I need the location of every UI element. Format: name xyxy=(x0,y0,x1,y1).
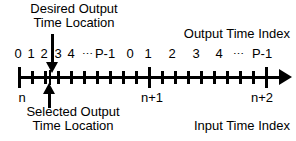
selected-output-label-line2: Time Location xyxy=(2,119,144,133)
right-arrow-icon xyxy=(279,69,292,85)
axis-minor-tick xyxy=(213,71,216,84)
axis-minor-tick xyxy=(57,71,60,84)
selected-output-label-line1: Selected Output xyxy=(26,104,119,119)
output-index-np1-3: 3 xyxy=(192,46,199,61)
output-index-np1-ellipsis: ⋯ xyxy=(233,48,244,61)
output-index-n-ellipsis: ⋯ xyxy=(82,48,93,61)
axis-major-tick-np2 xyxy=(265,67,268,88)
output-index-np1-0: 0 xyxy=(126,46,133,61)
time-index-diagram: Desired Output Time Location Output Time… xyxy=(0,0,296,141)
axis-minor-tick xyxy=(70,71,73,84)
desired-output-time-location-label: Desired Output Time Location xyxy=(14,2,134,29)
output-time-index-label: Output Time Index xyxy=(184,27,290,41)
selected-output-time-location-label: Selected Output Time Location xyxy=(2,105,144,132)
axis-minor-tick xyxy=(200,71,203,84)
desired-output-label-line2: Time Location xyxy=(14,16,134,30)
output-index-np1-1: 1 xyxy=(144,46,151,61)
axis-minor-tick xyxy=(31,71,34,84)
axis-minor-tick xyxy=(252,71,255,84)
frame-index-np1: n+1 xyxy=(141,90,163,105)
output-index-n-2: 2 xyxy=(40,46,47,61)
input-time-index-label: Input Time Index xyxy=(194,119,290,133)
output-index-n-4: 4 xyxy=(67,46,74,61)
output-index-np1-2: 2 xyxy=(168,46,175,61)
axis-minor-tick xyxy=(83,71,86,84)
axis-minor-tick xyxy=(226,71,229,84)
desired-output-label-line1: Desired Output xyxy=(30,1,117,16)
output-index-n-last: P-1 xyxy=(95,46,115,61)
output-index-np1-4: 4 xyxy=(215,46,222,61)
axis-minor-tick xyxy=(109,71,112,84)
frame-index-n: n xyxy=(18,90,25,105)
output-index-np1-last: P-1 xyxy=(252,46,272,61)
axis-minor-tick xyxy=(135,71,138,84)
output-index-n-1: 1 xyxy=(27,46,34,61)
axis-minor-tick xyxy=(174,71,177,84)
axis-minor-tick xyxy=(239,71,242,84)
frame-index-np2: n+2 xyxy=(251,90,273,105)
output-index-n-3: 3 xyxy=(54,46,61,61)
axis-minor-tick xyxy=(96,71,99,84)
axis-minor-tick xyxy=(122,71,125,84)
axis-major-tick-np1 xyxy=(148,67,151,88)
output-index-n-0: 0 xyxy=(14,46,21,61)
axis-minor-tick xyxy=(187,71,190,84)
axis-minor-tick xyxy=(161,71,164,84)
axis-major-tick-n xyxy=(18,67,21,88)
